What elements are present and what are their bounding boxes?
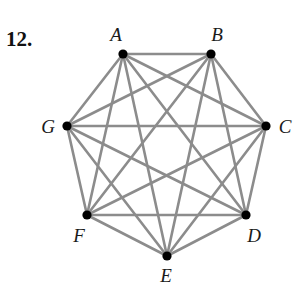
edge-c-f [87,126,266,215]
edge-e-f [87,215,167,256]
vertex-label-a: A [108,24,122,45]
graph-edges [67,54,266,256]
vertex-f [82,210,91,219]
vertex-label-f: F [72,225,85,246]
edge-a-c [123,54,266,126]
vertex-e [162,251,171,260]
vertex-a [118,49,127,58]
vertex-c [261,121,270,130]
vertex-label-e: E [159,265,172,286]
vertex-labels: ABCDEFG [41,24,292,286]
vertex-label-b: B [211,24,223,45]
edge-d-e [167,215,246,256]
vertex-b [206,49,215,58]
vertex-label-d: D [246,225,261,246]
problem-number: 12. [6,27,32,51]
edge-b-g [67,54,211,126]
edge-d-g [67,126,246,215]
vertex-d [241,210,250,219]
vertex-g [62,121,71,130]
graph-vertices [62,49,270,260]
vertex-label-c: C [279,116,292,137]
vertex-label-g: G [41,116,55,137]
graph-figure: 12. ABCDEFG [0,0,307,297]
